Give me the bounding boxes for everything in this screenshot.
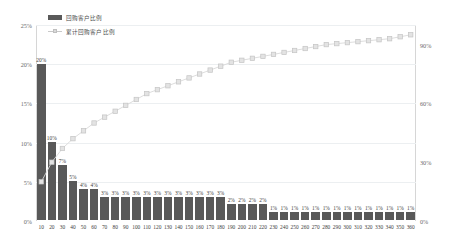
cumulative-line-marker [102, 115, 106, 119]
x-axis-tick-label: 40 [70, 224, 75, 230]
x-axis-labels: 1020304050607080901001101201301401501601… [36, 224, 416, 238]
cumulative-line-marker [124, 103, 128, 107]
y-axis-left-tick: 25% [4, 22, 32, 29]
x-axis-tick-label: 270 [312, 224, 320, 230]
x-axis-tick-label: 330 [375, 224, 383, 230]
x-axis-tick-label: 280 [322, 224, 330, 230]
cumulative-line-marker [166, 84, 170, 88]
legend-item-bar: 回购客户比例 [48, 12, 115, 23]
cumulative-line-marker [314, 44, 318, 48]
x-axis-tick-label: 50 [81, 224, 86, 230]
x-axis-tick-label: 290 [333, 224, 341, 230]
cumulative-line-marker [50, 160, 54, 164]
x-axis-tick-label: 230 [269, 224, 277, 230]
cumulative-line-marker [39, 180, 43, 184]
x-axis-tick-label: 60 [91, 224, 96, 230]
cumulative-line-marker [155, 87, 159, 91]
x-axis-tick-label: 70 [102, 224, 107, 230]
y-axis-left: 0%5%10%15%20%25% [0, 25, 32, 221]
y-axis-left-tick: 20% [4, 61, 32, 68]
cumulative-line-marker [398, 35, 402, 39]
bar-swatch-icon [48, 15, 62, 20]
cumulative-line-marker [92, 121, 96, 125]
cumulative-line-series [36, 25, 416, 221]
x-axis-tick-label: 30 [60, 224, 65, 230]
y-axis-left-tick: 15% [4, 100, 32, 107]
x-axis-tick-label: 320 [364, 224, 372, 230]
y-axis-right-tick: 30% [420, 159, 450, 166]
cumulative-line-marker [81, 129, 85, 133]
cumulative-line-marker [356, 39, 360, 43]
cumulative-line-marker [292, 48, 296, 52]
cumulative-line-marker [113, 109, 117, 113]
cumulative-line-marker [377, 38, 381, 42]
cumulative-line-marker [250, 56, 254, 60]
y-axis-right-tick: 60% [420, 100, 450, 107]
cumulative-line-marker [60, 146, 64, 150]
y-axis-left-tick: 0% [4, 218, 32, 225]
cumulative-line-path [41, 35, 410, 182]
cumulative-line-marker [282, 50, 286, 54]
x-axis-tick-label: 100 [132, 224, 140, 230]
x-axis-tick-label: 200 [238, 224, 246, 230]
x-axis-tick-label: 310 [354, 224, 362, 230]
x-axis-tick-label: 130 [164, 224, 172, 230]
x-axis-tick-label: 240 [280, 224, 288, 230]
x-axis-tick-label: 140 [174, 224, 182, 230]
x-axis-tick-label: 20 [49, 224, 54, 230]
cumulative-line-marker [345, 40, 349, 44]
x-axis-tick-label: 260 [301, 224, 309, 230]
cumulative-line-marker [134, 97, 138, 101]
y-axis-left-tick: 10% [4, 139, 32, 146]
x-axis-tick-label: 10 [39, 224, 44, 230]
cumulative-line-marker [303, 46, 307, 50]
x-axis-tick-label: 210 [248, 224, 256, 230]
x-axis-tick-label: 110 [143, 224, 151, 230]
cumulative-line-marker [409, 33, 413, 37]
cumulative-line-marker [219, 64, 223, 68]
cumulative-line-marker [335, 41, 339, 45]
x-axis-tick-label: 80 [112, 224, 117, 230]
y-axis-right-tick: 0% [420, 218, 450, 225]
cumulative-line-marker [261, 54, 265, 58]
x-axis-tick-label: 300 [343, 224, 351, 230]
y-axis-right: 0%30%60%90% [420, 25, 452, 221]
cumulative-line-marker [366, 38, 370, 42]
x-axis-tick-label: 170 [206, 224, 214, 230]
cumulative-line-marker [208, 68, 212, 72]
y-axis-left-tick: 5% [4, 178, 32, 185]
x-axis-tick-label: 90 [123, 224, 128, 230]
cumulative-line-marker [145, 91, 149, 95]
x-axis-tick-label: 150 [185, 224, 193, 230]
pareto-chart: 回购客户比例 累计回购客户比例 0%5%10%15%20%25% 0%30%60… [0, 0, 453, 250]
x-axis-tick-label: 350 [396, 224, 404, 230]
cumulative-line-marker [324, 42, 328, 46]
x-axis-tick-label: 160 [196, 224, 204, 230]
x-axis-tick-label: 180 [217, 224, 225, 230]
cumulative-line-marker [229, 60, 233, 64]
cumulative-line-marker [240, 58, 244, 62]
cumulative-line-marker [187, 76, 191, 80]
legend-label-bar: 回购客户比例 [66, 14, 103, 22]
x-axis-tick-label: 220 [259, 224, 267, 230]
cumulative-line-marker [197, 72, 201, 76]
plot-area: 20%10%7%5%4%4%3%3%3%3%3%3%3%3%3%3%3%3%2%… [36, 25, 416, 221]
x-axis-tick-label: 340 [386, 224, 394, 230]
x-axis-tick-label: 250 [291, 224, 299, 230]
cumulative-line-marker [71, 136, 75, 140]
cumulative-line-marker [387, 37, 391, 41]
x-axis-tick-label: 120 [153, 224, 161, 230]
cumulative-line-marker [271, 52, 275, 56]
cumulative-line-marker [176, 80, 180, 84]
x-axis-tick-label: 190 [227, 224, 235, 230]
x-axis-tick-label: 360 [407, 224, 415, 230]
y-axis-right-tick: 90% [420, 41, 450, 48]
